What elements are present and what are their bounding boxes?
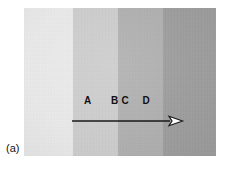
- micrograph-panel: A B C D: [24, 8, 216, 156]
- direction-arrow: [24, 8, 216, 156]
- panel-caption: (a): [6, 143, 19, 154]
- arrow-head-icon: [169, 116, 183, 125]
- figure-root: A B C D (a): [0, 0, 229, 174]
